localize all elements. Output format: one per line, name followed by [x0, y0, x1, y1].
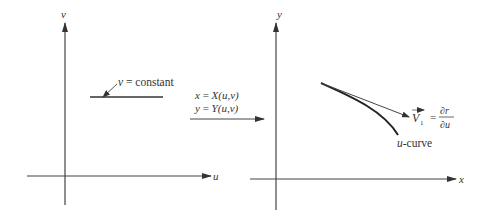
vector-equals: =: [430, 111, 436, 123]
v-constant-text: = constant: [123, 76, 174, 88]
u-curve-label: u-curve: [397, 137, 432, 149]
v-axis-label: v: [61, 8, 66, 20]
u-axis-label: u: [213, 170, 219, 182]
tangent-vector: [321, 83, 409, 117]
y-axis-label: y: [276, 8, 282, 20]
mapping-y-rhs: Y(u,v): [212, 102, 239, 115]
tangent-vector-label: V 1 = ∂r ∂u: [412, 105, 454, 130]
derivative-numerator: ∂r: [440, 105, 449, 116]
v-constant-label: v = constant: [118, 76, 174, 88]
vector-subscript: 1: [420, 119, 424, 127]
u-curve-text: -curve: [403, 137, 432, 149]
v-constant-leader: [103, 84, 117, 97]
parametric-mapping-diagram: v u v = constant x = X(u,v) y = Y(u,v) y…: [0, 0, 485, 221]
mapping-eq-y: y = Y(u,v): [194, 102, 239, 115]
mapping: x = X(u,v) y = Y(u,v): [190, 89, 264, 119]
xy-plane: y x V 1 = ∂r ∂u u-curve: [250, 8, 464, 210]
mapping-eq-x: x = X(u,v): [194, 89, 239, 102]
x-axis-label: x: [458, 173, 464, 185]
mapping-x-eq: =: [200, 89, 212, 101]
mapping-y-eq: =: [200, 102, 212, 114]
mapping-x-rhs: X(u,v): [211, 89, 240, 102]
uv-plane: v u v = constant: [27, 8, 219, 205]
u-curve: [321, 83, 398, 135]
derivative-denominator: ∂u: [440, 119, 450, 130]
